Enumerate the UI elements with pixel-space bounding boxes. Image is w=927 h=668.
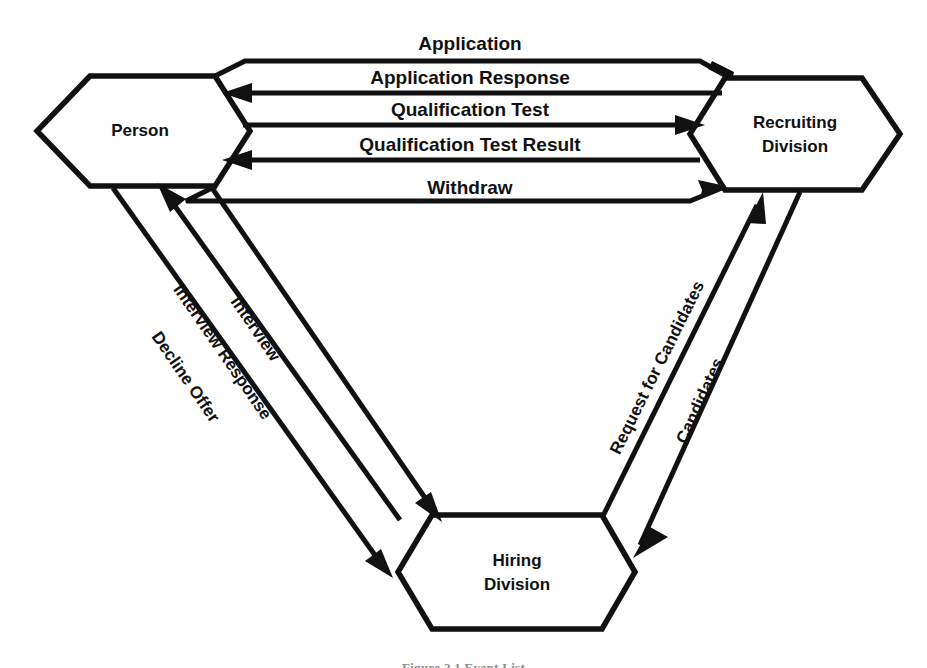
hiring-division-label-line2: Division (484, 575, 550, 594)
qualification-test-label: Qualification Test (391, 99, 550, 120)
diagram-canvas: Person Recruiting Division Hiring Divisi… (0, 0, 927, 668)
edge-application-response[interactable]: Application Response (222, 67, 722, 103)
event-flow-diagram: Person Recruiting Division Hiring Divisi… (0, 0, 927, 668)
recruiting-division-label-line2: Division (762, 137, 828, 156)
request-for-candidates-arrowhead (747, 192, 766, 224)
edge-interview-response[interactable]: Interview Response (157, 183, 400, 520)
node-hiring-division[interactable]: Hiring Division (398, 515, 635, 629)
person-label: Person (111, 121, 169, 140)
decline-offer-arrowhead (365, 549, 393, 578)
edge-interview[interactable]: Interview (212, 188, 442, 522)
edge-request-for-candidates[interactable]: Request for Candidates (602, 192, 766, 518)
withdraw-label: Withdraw (427, 177, 513, 198)
application-arrowhead (708, 61, 734, 81)
application-label: Application (418, 33, 521, 54)
edge-withdraw[interactable]: Withdraw (186, 177, 726, 201)
edge-qualification-test-result[interactable]: Qualification Test Result (222, 134, 700, 170)
interview-response-label: Interview Response (169, 281, 275, 423)
interview-line[interactable] (212, 188, 432, 508)
candidates-label: Candidates (672, 355, 727, 446)
figure-caption: Figure 2.1 Event List (0, 655, 927, 668)
node-person[interactable]: Person (37, 76, 250, 186)
hiring-division-hexagon[interactable] (398, 515, 635, 629)
hiring-division-label-line1: Hiring (492, 551, 541, 570)
edge-qualification-test[interactable]: Qualification Test (243, 99, 705, 135)
recruiting-division-label-line1: Recruiting (753, 113, 837, 132)
application-response-label: Application Response (370, 67, 570, 88)
candidates-arrowhead (633, 527, 668, 558)
qualification-test-result-label: Qualification Test Result (359, 134, 581, 155)
request-for-candidates-line[interactable] (602, 205, 757, 518)
interview-response-line[interactable] (167, 195, 400, 520)
